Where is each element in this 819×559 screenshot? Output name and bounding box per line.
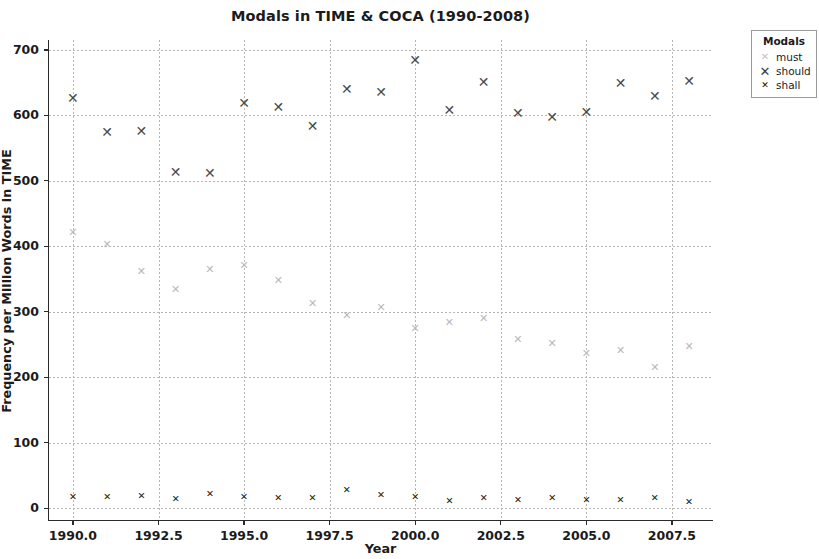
y-axis-tick (44, 508, 49, 509)
x-axis-label: Year (48, 541, 713, 556)
data-point-shall: ✕ (480, 494, 488, 504)
data-point-shall: ✕ (103, 492, 111, 502)
data-point-shall: ✕ (445, 496, 453, 506)
data-point-shall: ✕ (137, 492, 145, 502)
legend-marker-icon: ✕ (756, 52, 774, 62)
data-point-should: ✕ (375, 85, 387, 99)
data-point-must: ✕ (582, 348, 591, 359)
x-axis-tick (671, 520, 672, 525)
data-point-should: ✕ (444, 103, 456, 117)
data-point-should: ✕ (136, 124, 148, 138)
data-point-must: ✕ (445, 316, 454, 327)
data-point-should: ✕ (307, 119, 319, 133)
data-point-should: ✕ (683, 74, 695, 88)
data-point-shall: ✕ (514, 496, 522, 506)
data-point-shall: ✕ (240, 492, 248, 502)
data-point-must: ✕ (68, 226, 77, 237)
legend-item-label: must (774, 51, 802, 63)
legend: Modals ✕must✕should✕shall (751, 30, 817, 98)
data-point-shall: ✕ (617, 495, 625, 505)
data-point-should: ✕ (101, 125, 113, 139)
data-point-must: ✕ (513, 334, 522, 345)
data-point-must: ✕ (411, 323, 420, 334)
data-point-should: ✕ (67, 91, 79, 105)
data-point-must: ✕ (137, 265, 146, 276)
legend-item-label: should (774, 65, 811, 77)
legend-item-should[interactable]: ✕should (756, 64, 812, 78)
data-points-layer: ✕✕✕✕✕✕✕✕✕✕✕✕✕✕✕✕✕✕✕✕✕✕✕✕✕✕✕✕✕✕✕✕✕✕✕✕✕✕✕✕… (49, 40, 713, 520)
legend-item-label: shall (774, 79, 800, 91)
data-point-should: ✕ (204, 166, 216, 180)
data-point-must: ✕ (274, 275, 283, 286)
y-axis-tick (44, 49, 49, 50)
data-point-must: ✕ (479, 312, 488, 323)
y-axis-tick-label: 0 (0, 500, 39, 515)
data-point-should: ✕ (478, 75, 490, 89)
data-point-must: ✕ (205, 264, 214, 275)
plot-area: ✕✕✕✕✕✕✕✕✕✕✕✕✕✕✕✕✕✕✕✕✕✕✕✕✕✕✕✕✕✕✕✕✕✕✕✕✕✕✕✕… (48, 40, 713, 521)
x-axis-tick (158, 520, 159, 525)
data-point-must: ✕ (376, 302, 385, 313)
data-point-should: ✕ (341, 82, 353, 96)
y-axis-tick (44, 180, 49, 181)
data-point-shall: ✕ (206, 489, 214, 499)
y-axis-tick-label: 200 (0, 369, 39, 384)
x-axis-tick (500, 520, 501, 525)
data-point-must: ✕ (308, 297, 317, 308)
legend-marker-icon: ✕ (756, 81, 774, 90)
data-point-must: ✕ (616, 345, 625, 356)
x-axis-tick (329, 520, 330, 525)
data-point-must: ✕ (239, 259, 248, 270)
data-point-must: ✕ (548, 337, 557, 348)
y-axis-tick (44, 442, 49, 443)
chart-figure: Modals in TIME & COCA (1990-2008) Freque… (0, 0, 819, 559)
data-point-must: ✕ (342, 310, 351, 321)
data-point-shall: ✕ (309, 494, 317, 504)
y-axis-tick (44, 311, 49, 312)
y-axis-tick-label: 100 (0, 435, 39, 450)
legend-title: Modals (756, 35, 812, 47)
data-point-should: ✕ (512, 106, 524, 120)
data-point-must: ✕ (103, 239, 112, 250)
y-axis-tick (44, 377, 49, 378)
y-axis-tick-label: 500 (0, 173, 39, 188)
y-axis-tick-label: 600 (0, 107, 39, 122)
data-point-shall: ✕ (685, 497, 693, 507)
data-point-shall: ✕ (548, 493, 556, 503)
data-point-shall: ✕ (411, 492, 419, 502)
data-point-should: ✕ (546, 110, 558, 124)
data-point-shall: ✕ (582, 496, 590, 506)
x-axis-tick (243, 520, 244, 525)
chart-title: Modals in TIME & COCA (1990-2008) (48, 8, 713, 24)
data-point-must: ✕ (650, 361, 659, 372)
data-point-should: ✕ (409, 53, 421, 67)
data-point-shall: ✕ (343, 485, 351, 495)
y-axis-tick-label: 400 (0, 238, 39, 253)
data-point-should: ✕ (580, 105, 592, 119)
data-point-should: ✕ (272, 100, 284, 114)
x-axis-tick (72, 520, 73, 525)
legend-item-shall[interactable]: ✕shall (756, 78, 812, 92)
x-axis-tick (415, 520, 416, 525)
y-axis-tick (44, 115, 49, 116)
legend-item-must[interactable]: ✕must (756, 50, 812, 64)
x-axis-tick (586, 520, 587, 525)
data-point-should: ✕ (238, 96, 250, 110)
data-point-must: ✕ (684, 340, 693, 351)
legend-marker-icon: ✕ (756, 65, 774, 78)
data-point-shall: ✕ (377, 490, 385, 500)
data-point-should: ✕ (170, 165, 182, 179)
data-point-should: ✕ (615, 76, 627, 90)
data-point-shall: ✕ (274, 493, 282, 503)
y-axis-tick (44, 246, 49, 247)
data-point-shall: ✕ (172, 494, 180, 504)
data-point-shall: ✕ (69, 492, 77, 502)
data-point-must: ✕ (171, 283, 180, 294)
data-point-shall: ✕ (651, 494, 659, 504)
legend-entries: ✕must✕should✕shall (756, 50, 812, 92)
y-axis-tick-label: 700 (0, 42, 39, 57)
data-point-should: ✕ (649, 89, 661, 103)
y-axis-tick-label: 300 (0, 304, 39, 319)
